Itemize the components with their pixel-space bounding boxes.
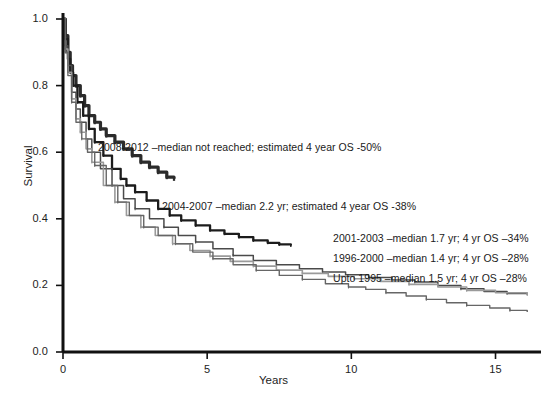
x-tick-label: 0 xyxy=(48,363,78,375)
survival-chart-figure: Survival Years 0.00.20.40.60.81.0 051015… xyxy=(0,0,547,407)
curve-annotation-3: 2001-2003 –median 1.7 yr; 4 yr OS –34% xyxy=(333,232,529,244)
y-tick-label: 0.2 xyxy=(18,278,48,290)
x-axis-label: Years xyxy=(0,374,547,386)
x-tick-label: 15 xyxy=(481,363,511,375)
y-tick-label: 0.0 xyxy=(18,345,48,357)
y-axis-label: Survival xyxy=(22,126,34,206)
curve-annotation-2: 2004-2007 –median 2.2 yr; estimated 4 ye… xyxy=(162,200,416,212)
y-tick-label: 1.0 xyxy=(18,12,48,24)
curve-annotation-4: 1996-2000 –median 1.4 yr; 4 yr OS –28% xyxy=(333,252,529,264)
survival-curve-upto-1995 xyxy=(63,19,527,312)
curve-annotation-5: Upto 1995 –median 1.5 yr; 4 yr OS –28% xyxy=(333,272,527,284)
y-tick-label: 0.4 xyxy=(18,212,48,224)
censor-marks-2008-2012 xyxy=(65,34,174,181)
y-tick-label: 0.8 xyxy=(18,79,48,91)
y-tick-label: 0.6 xyxy=(18,145,48,157)
x-tick-label: 10 xyxy=(336,363,366,375)
x-tick-label: 5 xyxy=(192,363,222,375)
survival-curves-group xyxy=(63,19,527,312)
survival-curve-2008-2012 xyxy=(63,19,174,179)
curve-annotation-1: 2008-2012 –median not reached; estimated… xyxy=(98,141,382,153)
